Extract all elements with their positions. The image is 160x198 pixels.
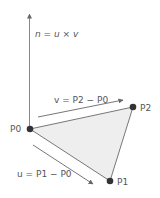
- p1-label: P1: [117, 177, 128, 187]
- point-p2: [130, 104, 137, 111]
- p0-label: P0: [10, 124, 21, 134]
- normal-label: n = u × v: [35, 29, 79, 39]
- triangle-normal-diagram: n = u × v v = P2 − P0 u = P1 − P0 P0 P1 …: [0, 0, 160, 198]
- u-label: u = P1 − P0: [17, 169, 72, 179]
- p2-label: P2: [140, 103, 151, 113]
- point-p1: [107, 178, 114, 185]
- point-p0: [27, 126, 34, 133]
- v-label: v = P2 − P0: [54, 95, 108, 105]
